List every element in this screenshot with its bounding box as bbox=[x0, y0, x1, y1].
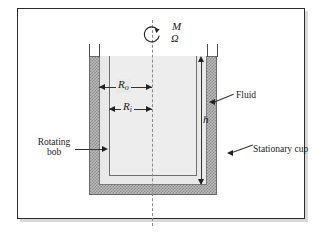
radius-outer-symbol: R bbox=[118, 78, 125, 90]
rotating-bob-leader-line bbox=[75, 149, 103, 150]
torque-label: M bbox=[172, 21, 181, 33]
radius-inner-arrow-left bbox=[109, 106, 115, 112]
fluid-arrow bbox=[209, 99, 215, 105]
height-arrow-bottom bbox=[198, 179, 204, 185]
rotation-axis-centerline bbox=[152, 20, 153, 226]
radius-inner-label: Ri bbox=[121, 101, 134, 115]
rotating-bob-body bbox=[109, 56, 197, 176]
fluid-label: Fluid bbox=[236, 90, 256, 100]
tick-left-cup-wall bbox=[89, 44, 90, 57]
angular-velocity-label: Ω bbox=[171, 33, 179, 44]
stationary-cup-arrow bbox=[227, 150, 233, 156]
tick-right-cup-wall bbox=[217, 44, 218, 57]
height-arrow-top bbox=[198, 56, 204, 62]
radius-outer-subscript: o bbox=[125, 83, 129, 92]
rotation-arrow-icon bbox=[140, 22, 168, 46]
radius-inner-subscript: i bbox=[130, 105, 132, 114]
figure-root: M Ω Ro Ri h Fluid Stationary cup Rotatin… bbox=[0, 0, 322, 239]
height-dimension-line bbox=[201, 58, 202, 184]
rotating-bob-label-line1: Rotating bbox=[38, 137, 71, 147]
rotating-bob-arrow bbox=[102, 146, 108, 152]
stationary-cup-label: Stationary cup bbox=[253, 144, 308, 154]
height-label: h bbox=[203, 114, 209, 126]
tick-right-cup-inner bbox=[207, 44, 208, 57]
rotating-bob-label: Rotating bob bbox=[34, 137, 74, 158]
radius-inner-symbol: R bbox=[123, 100, 130, 112]
tick-left-cup-inner bbox=[99, 44, 100, 57]
radius-inner-arrow-right bbox=[146, 106, 152, 112]
radius-outer-arrow-left bbox=[99, 84, 105, 90]
rotating-bob-label-line2: bob bbox=[47, 147, 61, 157]
radius-outer-arrow-right bbox=[146, 84, 152, 90]
radius-outer-label: Ro bbox=[116, 79, 131, 93]
